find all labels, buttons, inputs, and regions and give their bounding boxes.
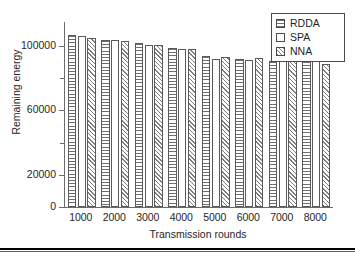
- legend-swatch-spa-icon: [276, 33, 285, 42]
- bar-spa-7000: [279, 61, 287, 207]
- x-tick-label: 8000: [295, 211, 335, 223]
- y-tick-label: 60000: [0, 103, 56, 115]
- figure-bar-chart: Remaining energy 02000060000100000 10002…: [0, 0, 355, 260]
- bar-rdda-5000: [202, 56, 210, 207]
- bar-rdda-4000: [168, 48, 176, 207]
- legend-item-0: RDDA: [276, 17, 340, 30]
- bar-nna-1000: [87, 38, 95, 207]
- legend-item-2: NNA: [276, 45, 340, 58]
- page-divider-rule-shadow: [0, 251, 355, 252]
- legend-label-2: NNA: [290, 46, 312, 57]
- page-divider-rule: [0, 248, 355, 250]
- bar-spa-2000: [111, 40, 119, 207]
- bar-rdda-2000: [101, 40, 109, 207]
- legend-label-0: RDDA: [290, 18, 320, 29]
- legend-swatch-rdda-icon: [276, 19, 285, 28]
- bar-nna-2000: [121, 41, 129, 207]
- bar-spa-4000: [178, 49, 186, 207]
- x-axis-line: [64, 207, 333, 208]
- bar-rdda-3000: [135, 43, 143, 207]
- y-tick-label: 0: [0, 200, 56, 212]
- bar-rdda-7000: [269, 61, 277, 207]
- chart-legend: RDDA SPA NNA: [271, 13, 345, 62]
- bar-nna-5000: [221, 57, 229, 207]
- bar-nna-6000: [255, 58, 263, 207]
- legend-label-1: SPA: [290, 32, 310, 43]
- bar-nna-4000: [188, 49, 196, 207]
- bar-nna-3000: [154, 45, 162, 207]
- legend-swatch-nna-icon: [276, 47, 285, 56]
- bar-spa-8000: [312, 61, 320, 207]
- bar-spa-6000: [245, 60, 253, 207]
- bar-spa-3000: [145, 45, 153, 207]
- y-tick-major: [59, 207, 64, 208]
- bar-nna-8000: [322, 64, 330, 207]
- bar-rdda-8000: [302, 61, 310, 207]
- bar-rdda-1000: [68, 35, 76, 207]
- legend-item-1: SPA: [276, 31, 340, 44]
- bar-spa-1000: [78, 36, 86, 207]
- bar-nna-7000: [288, 61, 296, 207]
- bar-spa-5000: [212, 59, 220, 207]
- y-tick-label: 100000: [0, 39, 56, 51]
- y-tick-label: 20000: [0, 168, 56, 180]
- x-axis-title: Transmission rounds: [64, 228, 332, 240]
- bar-rdda-6000: [235, 59, 243, 207]
